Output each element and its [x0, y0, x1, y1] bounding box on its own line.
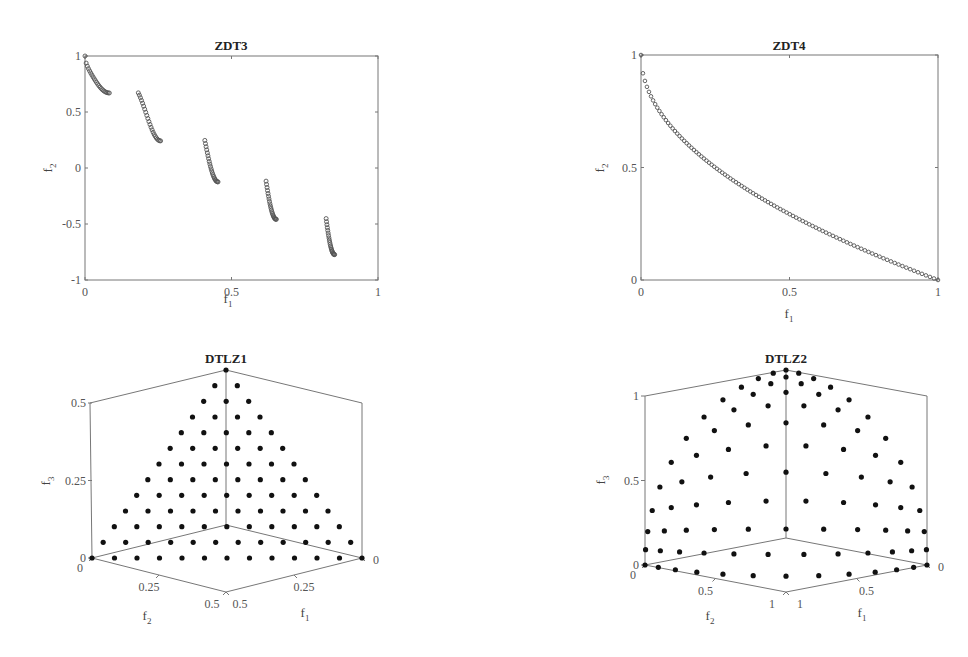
zdt3-ytick-label: 0 [75, 161, 81, 175]
subplot-zdt4: ZDT4 00.5100.51 f1 f2 [592, 38, 941, 324]
zdt3-data-points [83, 54, 337, 257]
dtlz1-f2-label: f2 [143, 608, 152, 626]
zdt4-ytick-label: 0 [631, 273, 637, 287]
dtlz2-f2-label: f2 [706, 608, 715, 626]
dtlz1-f3-label: f3 [38, 476, 56, 485]
dtlz2-f2-tick-label: 0 [630, 568, 636, 582]
dtlz1-f1-label: f1 [301, 605, 310, 623]
dtlz2-f1-label: f1 [858, 605, 867, 623]
dtlz2-f2-tick-label: 0.5 [698, 584, 713, 598]
dtlz2-axes-frame [645, 370, 927, 592]
dtlz1-f1-tick-label: 0.25 [294, 580, 315, 594]
subplot-zdt3: ZDT3 00.51-1-0.500.51 f1 f2 [40, 38, 381, 309]
zdt4-ylabel: f2 [592, 164, 610, 173]
zdt4-xtick-label: 0 [638, 285, 644, 299]
zdt4-ytick-label: 0.5 [622, 161, 637, 175]
dtlz1-f2-tick-label: 0.25 [139, 580, 160, 594]
zdt3-ylabel: f2 [40, 164, 58, 173]
zdt3-axes-frame [85, 56, 378, 280]
dtlz2-title: DTLZ2 [765, 351, 807, 366]
zdt4-xlabel: f1 [785, 306, 794, 324]
dtlz1-f1-tick-label: 0.5 [233, 597, 248, 611]
dtlz1-ztick-label: 0.5 [71, 396, 86, 410]
zdt4-xtick-label: 0.5 [782, 285, 797, 299]
dtlz2-f1-tick-label: 0 [938, 560, 944, 574]
dtlz1-title: DTLZ1 [205, 351, 247, 366]
dtlz1-data-points [89, 367, 364, 560]
zdt3-title: ZDT3 [214, 38, 248, 53]
zdt3-xtick-label: 0 [82, 285, 88, 299]
subplot-dtlz1: DTLZ1 00.250.500.250.500.250.5 f2 f1 f3 [38, 351, 379, 626]
dtlz2-ztick-label: 1 [633, 389, 639, 403]
zdt4-ytick-label: 1 [631, 48, 637, 62]
zdt3-ytick-label: 0.5 [66, 105, 81, 119]
figure-canvas: ZDT3 00.51-1-0.500.51 f1 f2 ZDT4 00.5100… [0, 0, 968, 657]
dtlz2-f1-tick-label: 1 [797, 597, 803, 611]
zdt4-data-points [639, 53, 940, 282]
dtlz2-f3-label: f3 [593, 475, 611, 484]
dtlz1-f2-tick-label: 0.5 [205, 597, 220, 611]
dtlz2-f1-tick-label: 0.5 [859, 584, 874, 598]
subplot-dtlz2: DTLZ2 00.5100.5100.51 f2 f1 f3 [593, 351, 944, 626]
zdt4-axes-frame [641, 55, 938, 280]
dtlz1-f1-tick-label: 0 [373, 553, 379, 567]
zdt3-xtick-label: 1 [375, 285, 381, 299]
zdt4-xtick-label: 1 [935, 285, 941, 299]
dtlz1-ticks: 00.250.500.250.500.250.5 [65, 396, 379, 611]
zdt3-ytick-label: 1 [75, 49, 81, 63]
dtlz1-f2-tick-label: 0 [77, 561, 83, 575]
zdt3-ticks: 00.51-1-0.500.51 [62, 49, 381, 299]
dtlz1-ztick-label: 0.25 [65, 474, 86, 488]
dtlz2-ztick-label: 0.5 [624, 474, 639, 488]
zdt4-title: ZDT4 [772, 38, 806, 53]
zdt3-ytick-label: -1 [71, 273, 81, 287]
dtlz2-f2-tick-label: 1 [769, 597, 775, 611]
zdt3-ytick-label: -0.5 [62, 217, 81, 231]
